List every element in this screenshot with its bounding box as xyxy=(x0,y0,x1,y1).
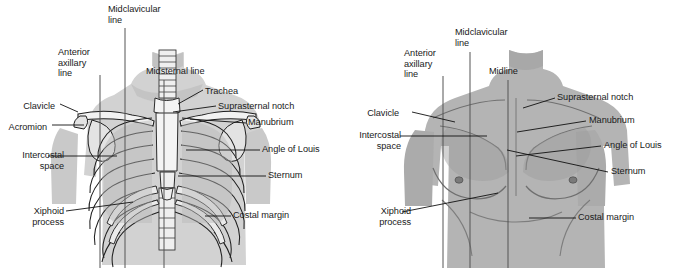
anatomy-figure: Midclavicular line Anterior axillary lin… xyxy=(0,0,689,277)
label-angle-of-louis: Angle of Louis xyxy=(262,144,344,155)
label-angle-of-louis: Angle of Louis xyxy=(604,140,688,151)
label-midclavicular-line: Midclavicular line xyxy=(455,27,539,48)
label-anterior-axillary-line: Anterior axillary line xyxy=(58,47,110,79)
label-xiphoid-process: Xiphoid process xyxy=(345,206,411,227)
label-suprasternal-notch: Suprasternal notch xyxy=(557,92,682,103)
label-midsternal-line: Midsternal line xyxy=(146,66,232,77)
label-costal-margin: Costal margin xyxy=(578,212,678,223)
label-costal-margin: Costal margin xyxy=(233,210,333,221)
nipple-left xyxy=(455,177,463,183)
label-trachea: Trachea xyxy=(205,86,265,97)
panel-skeletal-thorax: Midclavicular line Anterior axillary lin… xyxy=(0,0,345,277)
label-sternum: Sternum xyxy=(268,170,338,181)
label-xiphoid-process: Xiphoid process xyxy=(0,206,64,227)
label-clavicle: Clavicle xyxy=(345,108,399,119)
nipple-right xyxy=(569,177,577,183)
label-intercostal-space: Intercostal space xyxy=(0,150,64,171)
label-manubrium: Manubrium xyxy=(248,117,338,128)
label-acromion: Acromion xyxy=(0,122,47,133)
label-suprasternal-notch: Suprasternal notch xyxy=(218,101,338,112)
label-intercostal-space: Intercostal space xyxy=(345,130,401,151)
label-sternum: Sternum xyxy=(611,166,681,177)
label-midline: Midline xyxy=(489,66,549,77)
xiphoid-process-bone xyxy=(161,188,173,200)
label-anterior-axillary-line: Anterior axillary line xyxy=(404,48,456,80)
label-clavicle: Clavicle xyxy=(0,101,55,112)
label-manubrium: Manubrium xyxy=(589,115,679,126)
skeletal-thorax-illustration xyxy=(0,0,345,277)
torso-silhouette xyxy=(404,50,630,268)
label-midclavicular-line: Midclavicular line xyxy=(108,4,192,25)
panel-surface-thorax: Midclavicular line Anterior axillary lin… xyxy=(345,0,689,277)
